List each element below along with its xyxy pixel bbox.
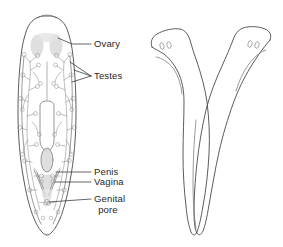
leader-ovary bbox=[58, 38, 91, 44]
pharynx-cavity bbox=[40, 101, 54, 151]
leader-testes bbox=[70, 62, 91, 82]
label-genital-pore-line2: pore bbox=[98, 204, 118, 215]
eyespot-right-worm-b bbox=[254, 41, 260, 49]
leader-genital-pore bbox=[49, 199, 91, 202]
mating-worm-left-neck bbox=[156, 57, 182, 94]
label-vagina: Vagina bbox=[94, 176, 124, 187]
eyespot-left-worm-b bbox=[166, 41, 172, 49]
right-mating-pair-group bbox=[151, 27, 271, 235]
label-testes: Testes bbox=[94, 70, 122, 81]
inner-margin-left bbox=[22, 56, 41, 224]
label-genital-pore-line1: Genital bbox=[94, 193, 125, 204]
figure-container: Ovary Testes Penis Vagina Genital pore bbox=[0, 0, 283, 247]
mating-worm-left-outline bbox=[151, 29, 209, 235]
left-planarian-group: Ovary Testes Penis Vagina Genital pore bbox=[18, 15, 125, 235]
eyespot-left-worm-a bbox=[159, 42, 165, 50]
ovary-bridge bbox=[34, 33, 60, 42]
inner-margin-right bbox=[53, 56, 72, 224]
mating-worm-right-outline bbox=[194, 27, 271, 235]
label-ovary: Ovary bbox=[94, 38, 120, 49]
eyespot-right-worm-a bbox=[247, 40, 253, 48]
head-apex bbox=[38, 15, 56, 18]
planarian-figure-svg: Ovary Testes Penis Vagina Genital pore bbox=[0, 0, 283, 247]
